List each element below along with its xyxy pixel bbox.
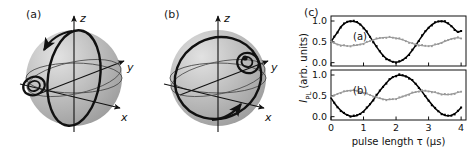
data-point [379,37,381,39]
data-point [402,39,404,41]
data-point [408,78,410,80]
data-point [346,90,348,92]
data-point [340,110,342,112]
data-point [437,43,439,45]
data-point [359,44,361,46]
bloch-sphere-a-svg: z y x [0,0,152,150]
data-point [372,96,374,98]
y-axis-title: IPL (arb. units) [298,33,313,103]
data-point [382,86,384,88]
data-point [418,87,420,89]
panel-b-tag: (b) [164,8,180,21]
axis-x-label-b: x [264,111,272,124]
data-point [330,96,332,98]
data-point [434,107,436,109]
data-point [450,25,452,27]
data-point [408,42,410,44]
data-point [421,34,423,36]
data-point [398,73,400,75]
data-point [337,106,339,108]
data-point [372,39,374,41]
data-point [444,114,446,116]
y-tick-label: 0.5 [312,36,327,47]
data-point [382,55,384,57]
data-point [346,45,348,47]
data-point [376,45,378,47]
data-point [372,41,374,43]
data-point [431,104,433,106]
data-point [441,113,443,115]
data-point [379,50,381,52]
subplot-label-a: (a) [353,31,367,42]
data-point [382,98,384,100]
data-point [437,110,439,112]
data-point [350,116,352,118]
data-point [398,37,400,39]
data-point [460,107,462,109]
data-point [428,27,430,29]
axis-x-label-a: x [120,111,128,124]
data-point [450,38,452,40]
data-point [369,40,371,42]
data-point [437,92,439,94]
x-tick-label: 2 [393,122,399,133]
data-point [421,89,423,91]
x-axis-title: pulse length τ (µs) [352,136,446,147]
data-point [382,37,384,39]
data-point [343,112,345,114]
x-tick-label: 3 [426,122,432,133]
data-point [441,42,443,44]
data-point [447,22,449,24]
y-tick-label: 1.0 [312,69,327,80]
panel-a-tag: (a) [26,8,41,21]
data-point [343,44,345,46]
data-point [392,61,394,63]
data-point [369,36,371,38]
data-point [343,22,345,24]
data-point [346,114,348,116]
data-point [415,91,417,93]
data-point [343,90,345,92]
data-point [434,21,436,23]
data-point [340,45,342,47]
data-point [333,42,335,44]
data-point [460,30,462,32]
bloch-sphere-b-svg: z y x [150,0,300,150]
series-line-black-signal [331,21,461,62]
data-point [398,96,400,98]
data-point [460,91,462,93]
data-point [437,20,439,22]
data-point [395,98,397,100]
data-point [457,31,459,33]
data-point [457,91,459,93]
x-tick-label: 1 [361,122,367,133]
data-point [398,60,400,62]
data-point [350,46,352,48]
data-point [415,83,417,85]
y-tick-label: 0.0 [312,111,327,122]
data-point [447,39,449,41]
data-point [333,94,335,96]
data-point [356,21,358,23]
axis-y-label-b: y [270,61,278,74]
y-tick-label: 0.5 [312,90,327,101]
data-point [402,96,404,98]
data-point [424,45,426,47]
data-point [395,75,397,77]
data-point [395,38,397,40]
data-point [372,99,374,101]
data-point [444,20,446,22]
data-point [366,106,368,108]
data-point [411,49,413,51]
data-point [434,91,436,93]
series-line-black-signal [331,75,461,116]
data-point [376,94,378,96]
data-point [431,24,433,26]
data-point [363,27,365,29]
trajectory-spiral-dot-b [242,55,247,60]
figure-root: (a) z y [0,0,473,150]
panel-c-tag: (c) [304,6,319,19]
data-point [389,59,391,61]
data-point [363,43,365,45]
data-point [421,44,423,46]
